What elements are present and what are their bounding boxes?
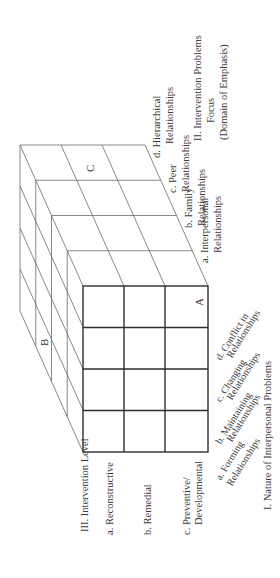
axis-ii-item-c-line2: Relationships (180, 135, 192, 192)
axis-iii-item-c-line2: Developmental (193, 461, 205, 525)
axis-iii-item-a: a. Reconstructive (104, 462, 116, 535)
axis-iii-item-b: b. Remedial (142, 484, 154, 535)
cell-marker-c: C (84, 165, 96, 172)
front-face (83, 286, 208, 452)
axis-ii-item-b-line2: Relationships (196, 169, 208, 226)
axis-ii-item-d-line2: Relationships (164, 87, 176, 144)
axis-iii-title: III. Intervention Level (79, 438, 91, 532)
cube-grid (0, 0, 280, 578)
axis-ii-title-line2: Focus (205, 98, 217, 123)
axis-i-title: I. Nature of Interpersonal Problems (262, 361, 274, 510)
axis-ii-item-d-line1: d. Hierarchical (151, 96, 163, 158)
axis-ii-item-a-line2: Relationships (212, 196, 224, 253)
axis-iii-item-c-line1: c. Preventive/ (181, 477, 193, 535)
axis-ii-title-line1: II. Intervention Problems (192, 35, 204, 141)
three-dimensional-model-diagram: A B C III. Intervention Level a. Reconst… (0, 0, 280, 578)
axis-ii-item-b-line1: b. Family (183, 188, 195, 228)
left-face (20, 145, 83, 452)
cell-marker-b: B (38, 339, 50, 346)
axis-ii-title-line3: (Domain of Emphasis) (218, 44, 230, 140)
cell-marker-a: A (193, 298, 205, 306)
axis-ii-item-c-line1: c. Peer (167, 164, 179, 193)
